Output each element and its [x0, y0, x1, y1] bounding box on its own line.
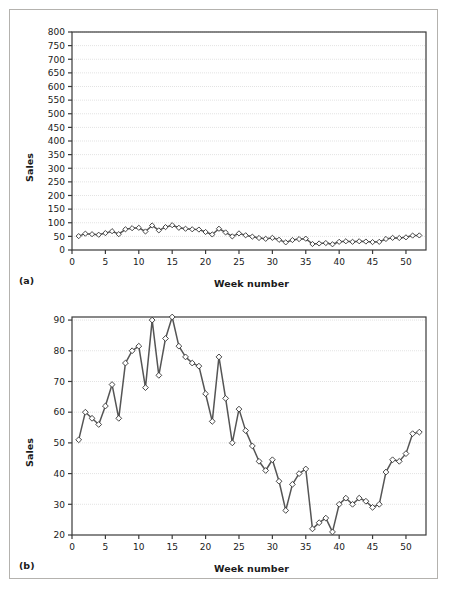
- panel-b-y-tick-label: 90: [54, 315, 66, 325]
- panel-a-data-point: [276, 237, 281, 242]
- panel-a-y-tick-label: 100: [48, 218, 65, 228]
- panel-a-data-point: [350, 239, 355, 244]
- panel-b-data-point: [169, 314, 175, 320]
- panel-b-data-point: [76, 437, 82, 443]
- panel-b-data-point: [249, 443, 255, 449]
- panel-a-y-tick-label: 650: [48, 68, 65, 78]
- panel-a-y-tick-label: 0: [59, 245, 65, 255]
- panel-b-data-point: [109, 382, 115, 388]
- panel-b-data-point: [216, 354, 222, 360]
- panel-b-data-point: [123, 360, 129, 366]
- panel-a-data-point: [163, 225, 168, 230]
- panel-a-x-tick-label: 25: [233, 257, 244, 267]
- panel-a-data-point: [183, 226, 188, 231]
- panel-b-data-point: [390, 457, 396, 463]
- panel-a-x-tick-label: 10: [133, 257, 145, 267]
- panel-b-x-tick-label: 0: [69, 542, 75, 552]
- chart-panel-a: Sales 0501001502002503003504004505005506…: [10, 10, 439, 295]
- panel-a-data-point: [317, 241, 322, 246]
- panel-a-data-point: [323, 240, 328, 245]
- panel-b-plot-frame: [72, 317, 426, 535]
- panel-a-label: (a): [19, 275, 34, 286]
- panel-a-x-tick-label: 45: [367, 257, 378, 267]
- panel-a-data-point: [377, 239, 382, 244]
- panel-b-x-tick-label: 15: [166, 542, 177, 552]
- panel-a-data-point: [83, 231, 88, 236]
- panel-b-y-tick-label: 50: [54, 438, 66, 448]
- panel-a-y-tick-label: 400: [48, 136, 65, 146]
- panel-b-data-point: [376, 501, 382, 507]
- panel-b-x-tick-label: 5: [103, 542, 109, 552]
- panel-a-data-point: [76, 234, 81, 239]
- panel-b-data-point: [223, 395, 229, 401]
- panel-a-y-tick-label: 250: [48, 177, 65, 187]
- panel-b-plot: 203040506070809005101520253035404550: [10, 295, 439, 560]
- panel-a-y-tick-label: 600: [48, 82, 65, 92]
- panel-a-data-point: [103, 231, 108, 236]
- panel-a-y-tick-label: 550: [48, 95, 65, 105]
- panel-a-data-point: [130, 226, 135, 231]
- chart-panel-b: Sales 2030405060708090051015202530354045…: [10, 295, 439, 580]
- figure-frame: Sales 0501001502002503003504004505005506…: [9, 9, 438, 579]
- panel-a-y-tick-label: 450: [48, 123, 65, 133]
- panel-b-data-point: [236, 406, 242, 412]
- panel-a-data-point: [250, 234, 255, 239]
- panel-b-data-point: [163, 336, 169, 342]
- panel-b-y-tick-label: 80: [54, 346, 66, 356]
- panel-a-x-tick-label: 20: [200, 257, 212, 267]
- panel-a-data-point: [383, 236, 388, 241]
- panel-a-data-point: [203, 229, 208, 234]
- panel-b-y-tick-label: 30: [54, 500, 66, 510]
- panel-a-y-tick-label: 750: [48, 41, 65, 51]
- panel-b-data-point: [196, 363, 202, 369]
- panel-a-x-axis-title: Week number: [74, 278, 429, 289]
- panel-b-x-tick-label: 35: [300, 542, 311, 552]
- panel-a-data-point: [243, 233, 248, 238]
- panel-b-label: (b): [19, 560, 34, 571]
- panel-a-data-point: [170, 223, 175, 228]
- panel-b-data-point: [276, 478, 282, 484]
- panel-b-data-point: [156, 372, 162, 378]
- panel-a-x-tick-label: 50: [400, 257, 412, 267]
- panel-b-data-point: [243, 428, 249, 434]
- panel-b-x-tick-label: 40: [333, 542, 345, 552]
- panel-a-data-point: [196, 227, 201, 232]
- panel-a-data-point: [330, 242, 335, 247]
- panel-a-y-tick-label: 700: [48, 55, 65, 65]
- panel-b-y-tick-label: 40: [54, 469, 66, 479]
- panel-a-y-tick-label: 500: [48, 109, 65, 119]
- panel-b-data-point: [330, 529, 336, 535]
- panel-a-y-tick-label: 350: [48, 150, 65, 160]
- panel-b-x-tick-label: 50: [400, 542, 412, 552]
- panel-b-data-point: [229, 440, 235, 446]
- panel-b-x-tick-label: 25: [233, 542, 244, 552]
- panel-a-data-point: [397, 235, 402, 240]
- panel-a-x-tick-label: 5: [103, 257, 109, 267]
- panel-b-y-tick-label: 60: [54, 407, 66, 417]
- panel-b-x-tick-label: 30: [267, 542, 279, 552]
- panel-a-data-point: [337, 239, 342, 244]
- panel-b-data-point: [209, 418, 215, 424]
- panel-b-data-point: [383, 469, 389, 475]
- panel-a-data-point: [370, 239, 375, 244]
- panel-b-data-point: [143, 385, 149, 391]
- panel-a-data-point: [417, 233, 422, 238]
- panel-b-x-tick-label: 10: [133, 542, 145, 552]
- panel-a-x-tick-label: 40: [333, 257, 345, 267]
- panel-a-data-point: [403, 235, 408, 240]
- panel-a-data-point: [236, 231, 241, 236]
- panel-a-data-point: [343, 239, 348, 244]
- panel-b-x-tick-label: 20: [200, 542, 212, 552]
- panel-a-y-tick-label: 200: [48, 191, 65, 201]
- panel-a-data-point: [290, 237, 295, 242]
- panel-a-data-point: [357, 239, 362, 244]
- panel-b-x-tick-label: 45: [367, 542, 378, 552]
- panel-b-data-point: [410, 431, 416, 437]
- panel-b-series-line: [79, 317, 420, 532]
- panel-a-y-tick-label: 800: [48, 27, 65, 37]
- panel-b-data-point: [203, 391, 209, 397]
- panel-a-y-tick-label: 50: [54, 232, 66, 242]
- panel-a-y-tick-label: 300: [48, 164, 65, 174]
- panel-a-x-tick-label: 15: [166, 257, 177, 267]
- panel-a-y-tick-label: 150: [48, 204, 65, 214]
